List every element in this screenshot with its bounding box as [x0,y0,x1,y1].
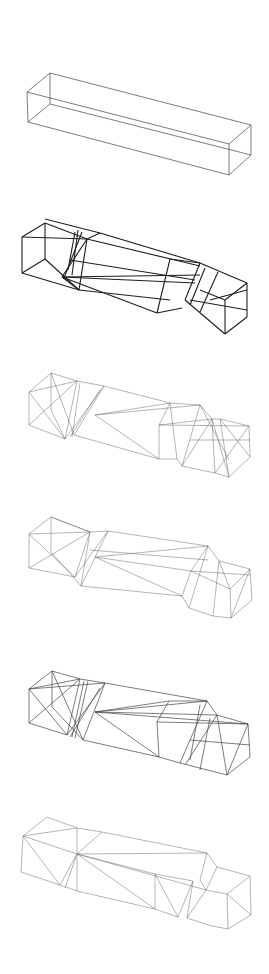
wireframe-box-series [0,0,269,974]
edge-line [87,239,200,266]
edge-line [159,425,249,426]
edge-line [229,125,251,144]
edge-line [22,223,45,237]
edge-line [191,546,208,571]
edge-line [210,290,247,300]
edge-line [51,552,81,586]
edge-line [65,386,104,439]
edge-line [77,832,102,854]
edge-line [157,259,170,313]
figure-box-5 [29,671,250,775]
edge-line [208,546,219,561]
edge-line [72,383,80,437]
edge-line [187,881,193,918]
figure-box-3 [29,373,250,477]
edge-line [90,531,108,532]
edge-line [29,683,105,689]
edge-line [200,263,247,283]
edge-line [170,403,177,459]
edge-line [65,854,77,888]
edge-line [60,854,77,885]
edge-line [231,569,250,618]
edge-line [29,534,75,577]
edge-line [219,561,250,569]
edge-line [182,466,215,473]
edge-line [74,435,159,459]
edge-line [217,867,250,876]
edge-line [227,894,228,929]
edge-line [72,230,78,275]
edge-line [95,712,159,757]
edge-line [200,853,207,880]
edge-line [248,724,250,757]
edge-line [28,104,50,122]
edge-line [155,874,178,917]
edge-line [182,571,191,596]
edge-line [215,473,229,477]
edge-line [95,701,207,712]
artwork-container [0,0,269,974]
edge-line [29,517,51,534]
edge-line [250,569,252,600]
figure-box-4 [29,517,252,618]
edge-line [77,854,155,909]
edge-line [200,290,225,300]
edge-line [81,532,90,586]
edge-line [77,828,102,832]
edge-line [21,836,23,872]
edge-line [79,239,87,290]
edge-line [29,381,77,425]
edge-line [77,854,155,874]
edge-line [190,705,200,760]
edge-line [225,283,247,300]
edge-line [182,596,189,608]
edge-line [95,415,159,459]
edge-line [62,277,195,283]
edge-line [227,724,248,775]
edge-line [51,517,90,532]
edge-line [29,689,67,735]
edge-line [29,373,51,392]
edge-line [227,876,250,894]
edge-line [29,723,67,735]
edge-line [62,275,200,277]
edge-line [157,722,159,757]
edge-line [79,290,170,300]
edge-line [159,757,180,763]
edge-line [249,426,250,457]
edge-line [182,419,212,466]
edge-line [77,853,207,854]
edge-line [95,557,191,571]
edge-line [102,832,207,853]
edge-line [207,853,217,867]
edge-line [27,73,50,92]
edge-line [23,828,77,836]
edge-line [207,701,217,715]
edge-line [190,268,205,305]
edge-line [159,403,170,425]
edge-line [87,233,100,239]
edge-line [62,277,157,313]
edge-line [217,715,227,775]
edge-line [22,259,45,273]
edge-line [50,73,251,125]
edge-line [95,557,182,596]
edge-line [62,277,79,290]
edge-line [77,854,206,890]
edge-line [185,263,200,300]
edge-line [206,867,217,890]
edge-line [213,561,219,616]
edge-line [27,92,229,144]
figure-box-2 [22,219,247,334]
edge-line [189,546,208,608]
edge-line [51,373,77,381]
edge-line [228,915,251,929]
edge-line [81,586,182,596]
edge-line [65,381,77,439]
edge-line [29,568,75,577]
edge-line [23,836,60,885]
edge-line [29,671,52,689]
edge-line [182,405,200,466]
edge-line [227,894,251,915]
edge-line [225,317,247,334]
